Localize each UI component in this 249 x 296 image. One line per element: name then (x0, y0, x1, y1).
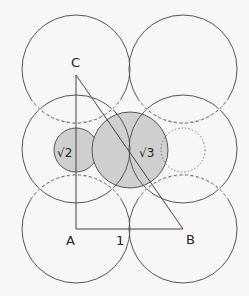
label-a: A (66, 233, 75, 248)
label-b: B (186, 232, 195, 247)
label-side-ab: 1 (116, 233, 124, 248)
geometry-diagram: C A 1 B √2 √3 (0, 0, 249, 296)
label-sqrt3: √3 (139, 146, 154, 160)
label-c: C (71, 55, 80, 70)
label-sqrt2: √2 (57, 146, 72, 160)
diagram-canvas: C A 1 B √2 √3 (0, 0, 249, 296)
